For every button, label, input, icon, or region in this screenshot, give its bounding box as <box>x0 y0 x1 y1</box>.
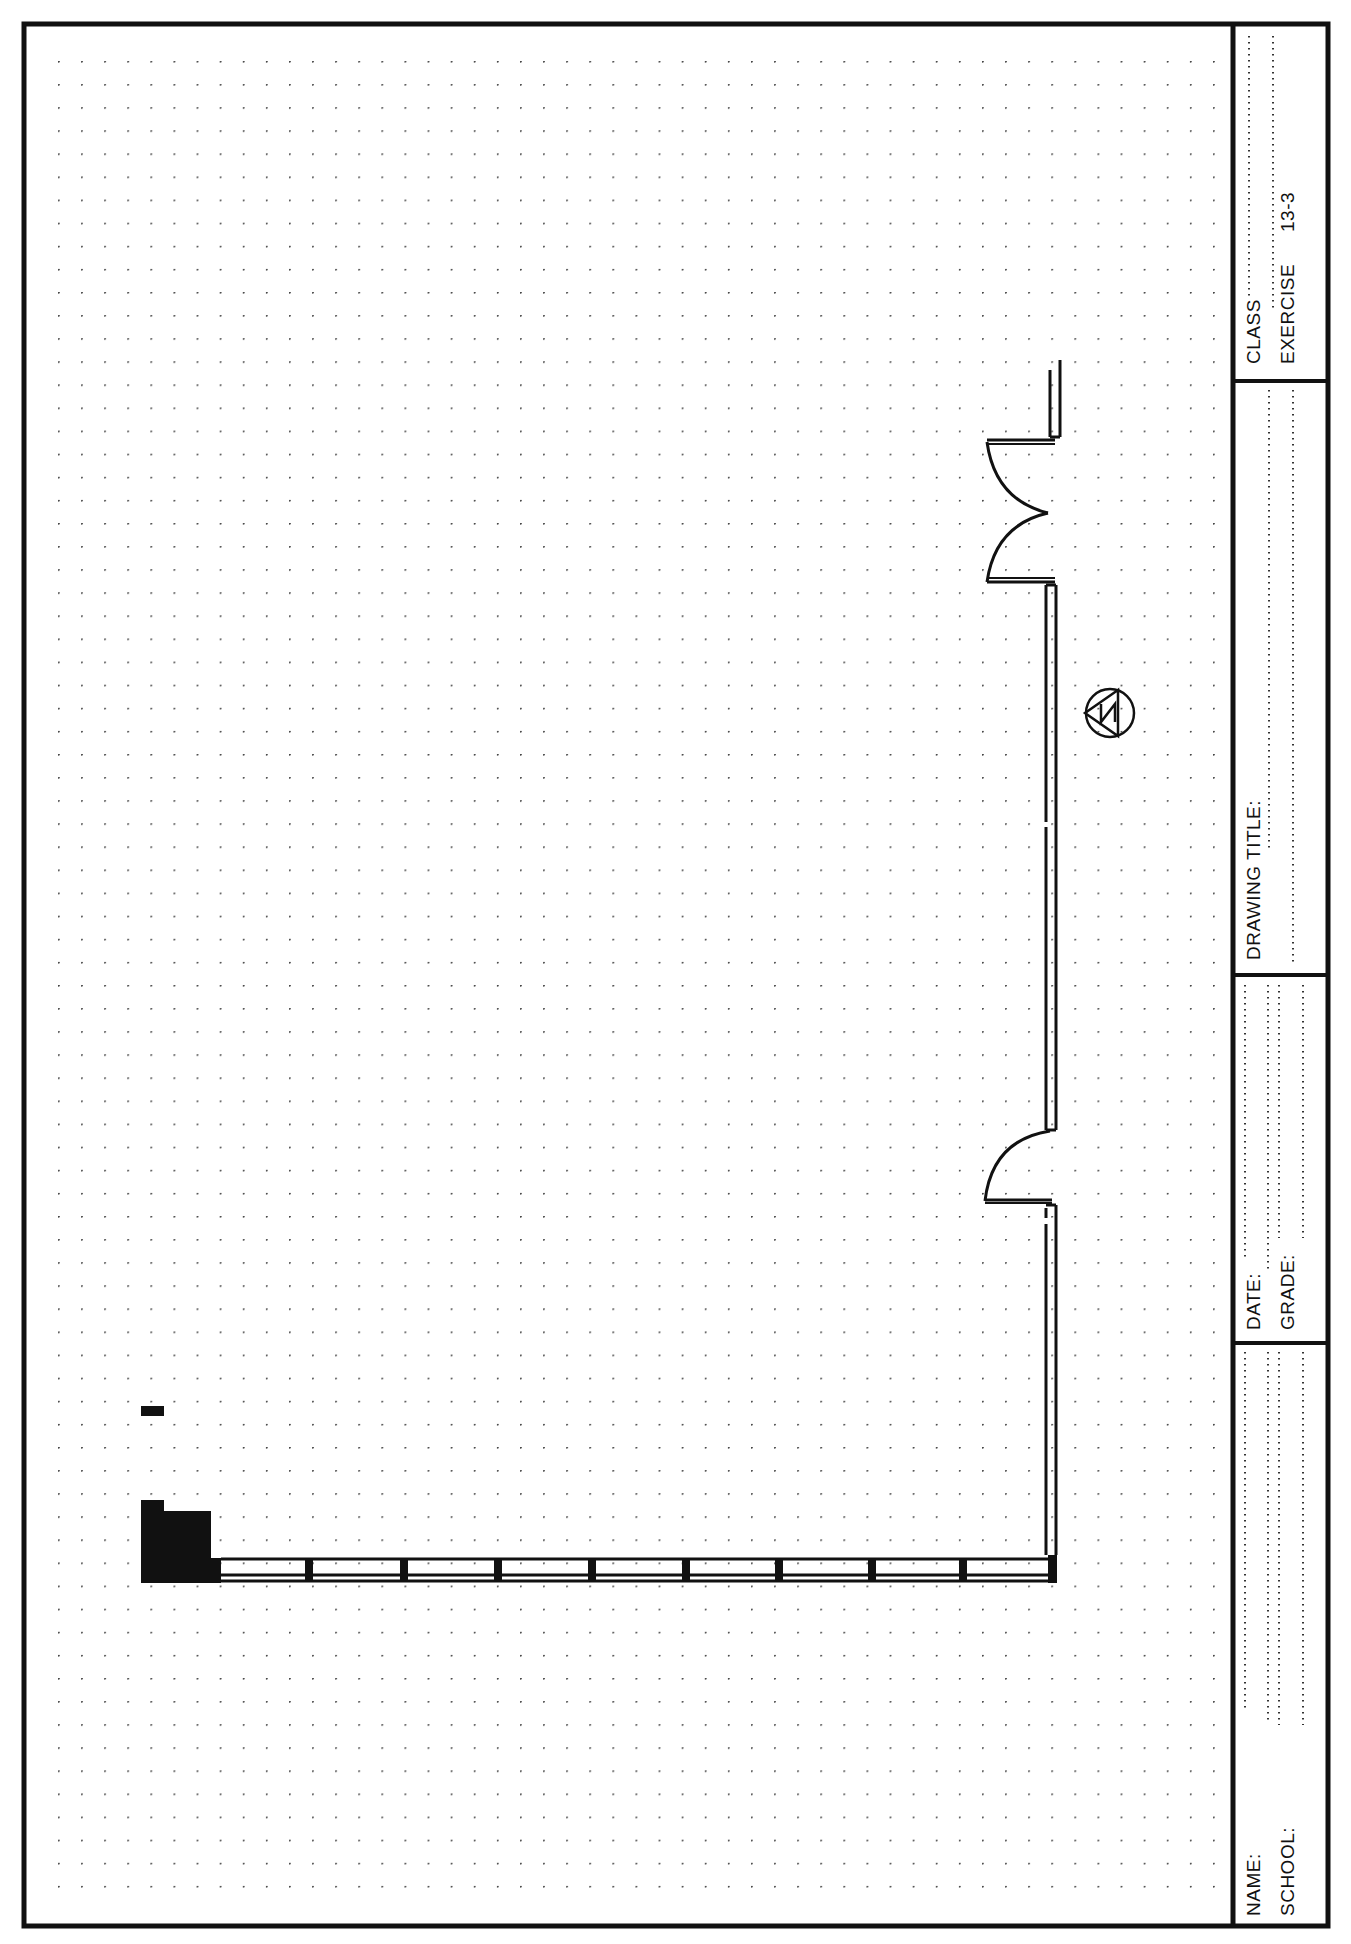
grade-label: GRADE: <box>1277 1254 1299 1330</box>
drawing-sheet: CLASS EXERCISE 13-3 DRAWING TITLE: DATE:… <box>0 0 1351 1944</box>
class-label: CLASS <box>1243 299 1265 364</box>
window-mullion <box>868 1558 876 1582</box>
masonry-block <box>141 1500 221 1583</box>
school-label: SCHOOL: <box>1277 1827 1299 1916</box>
name-label: NAME: <box>1243 1853 1265 1916</box>
window-mullion <box>494 1558 502 1582</box>
window-mullion <box>682 1558 690 1582</box>
window-mullion <box>400 1558 408 1582</box>
date-label: DATE: <box>1243 1273 1265 1330</box>
window-mullion <box>775 1558 783 1582</box>
drawing-canvas <box>0 0 1351 1944</box>
small-block <box>141 1406 164 1416</box>
drawing-title-label: DRAWING TITLE: <box>1243 800 1265 960</box>
exercise-number: 13-3 <box>1277 192 1299 232</box>
dot-grid <box>55 58 1217 1892</box>
exercise-label: EXERCISE <box>1277 264 1299 364</box>
window-mullion <box>588 1558 596 1582</box>
window-mullion <box>959 1558 967 1582</box>
corner-post <box>1048 1555 1057 1583</box>
window-mullion <box>305 1558 313 1582</box>
